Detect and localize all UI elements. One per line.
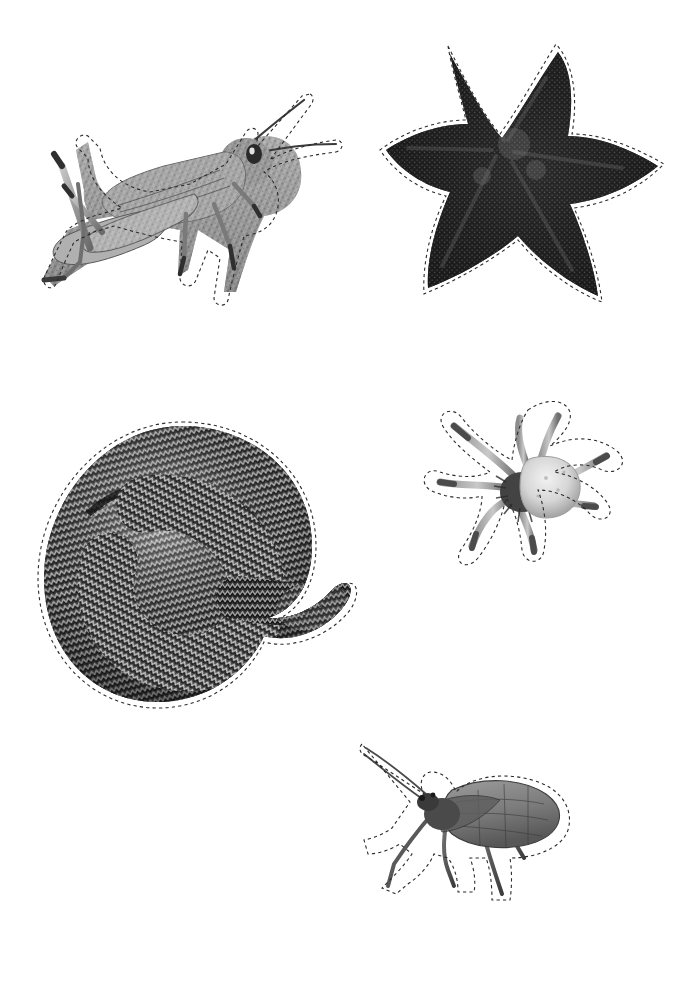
- winged-insect-artwork: [358, 740, 578, 900]
- figure-spider[interactable]: [424, 400, 624, 588]
- grasshopper-artwork: [38, 80, 344, 325]
- snake-body: [0, 346, 430, 787]
- figure-starfish[interactable]: [386, 44, 664, 302]
- snake-artwork: [40, 422, 358, 722]
- worksheet-page: [0, 0, 696, 982]
- spider-artwork: [424, 400, 624, 588]
- spider-abdomen: [520, 456, 580, 518]
- figure-grasshopper[interactable]: [38, 80, 344, 325]
- figure-winged-insect[interactable]: [358, 740, 578, 900]
- starfish-artwork: [386, 44, 664, 302]
- figure-snake[interactable]: [40, 422, 358, 722]
